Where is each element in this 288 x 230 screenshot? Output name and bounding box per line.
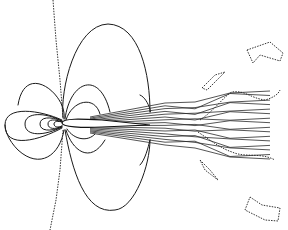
contour-line xyxy=(65,130,150,210)
contour-plot xyxy=(0,0,288,230)
dotted-contours xyxy=(50,0,283,230)
airfoil-shape xyxy=(62,119,150,127)
wake-line xyxy=(90,133,270,159)
dotted-contour-line xyxy=(50,130,63,230)
contour-line xyxy=(54,121,62,127)
contour-line xyxy=(67,129,95,139)
wake-line xyxy=(90,94,270,119)
wake-line xyxy=(90,128,270,139)
dotted-contour-line xyxy=(247,42,283,63)
wake-line xyxy=(90,103,270,121)
dotted-contour-line xyxy=(245,197,280,221)
wake-line xyxy=(90,130,270,148)
contour-line xyxy=(63,24,150,118)
solid-contours xyxy=(5,24,151,210)
dotted-contour-line xyxy=(200,160,218,180)
dotted-contour-line xyxy=(53,0,63,118)
contour-line xyxy=(5,111,62,140)
contour-line xyxy=(18,83,64,119)
contour-line xyxy=(140,140,150,165)
dotted-contour-line xyxy=(202,72,225,90)
